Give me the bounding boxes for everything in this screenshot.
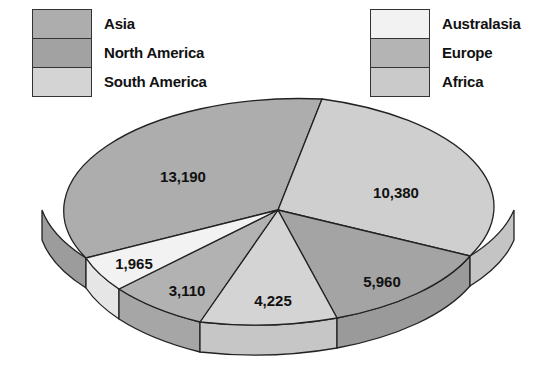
value-label-asia: 13,190	[160, 168, 206, 185]
value-label-australasia: 1,965	[115, 255, 153, 272]
pie-chart: 13,190 10,380 5,960 4,225 3,110 1,965	[0, 0, 545, 365]
value-label-south-america: 4,225	[254, 292, 292, 309]
value-label-north-america: 5,960	[363, 273, 401, 290]
value-label-africa: 10,380	[373, 184, 419, 201]
value-label-europe: 3,110	[169, 282, 206, 299]
